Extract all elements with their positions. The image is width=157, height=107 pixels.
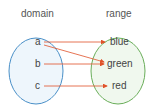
range-element-green: green [107,58,133,69]
domain-element-c: c [35,80,40,91]
range-element-red: red [112,80,126,91]
range-set-ellipse [91,38,145,104]
range-title: range [106,8,132,19]
range-element-blue: blue [110,36,129,47]
domain-element-b: b [35,58,41,69]
domain-title: domain [21,8,54,19]
domain-element-a: a [35,36,41,47]
